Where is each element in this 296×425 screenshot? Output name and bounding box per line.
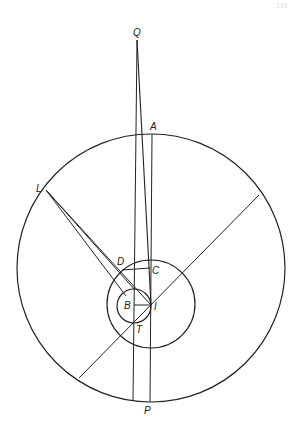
label-A: A (149, 121, 157, 132)
geometry-diagram: Q A L D C B I T P (0, 0, 296, 425)
line-Q-I (137, 40, 151, 305)
label-L: L (36, 183, 42, 194)
label-P: P (144, 405, 151, 416)
label-Q: Q (133, 27, 141, 38)
label-D: D (117, 256, 124, 267)
label-T: T (136, 324, 143, 335)
diagonal-diameter (79, 195, 259, 378)
line-L-B (46, 190, 126, 296)
line-L-inner (46, 190, 135, 290)
label-B: B (124, 300, 131, 311)
label-C: C (152, 265, 160, 276)
label-I: I (154, 301, 157, 312)
